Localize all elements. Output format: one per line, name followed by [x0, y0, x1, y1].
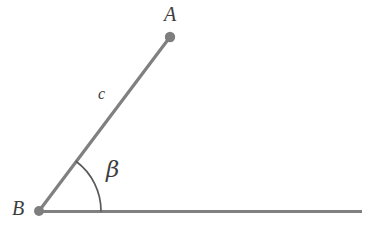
- vertex-label-a: A: [164, 4, 176, 24]
- segment-ba: [39, 37, 170, 211]
- diagram-canvas: [0, 0, 371, 231]
- side-label-c: c: [98, 86, 105, 102]
- angle-label-beta: β: [106, 158, 119, 181]
- geometry-diagram: A B c β: [0, 0, 371, 231]
- point-marker-a: [165, 32, 175, 42]
- point-marker-b: [34, 206, 44, 216]
- vertex-label-b: B: [12, 198, 24, 218]
- angle-arc-beta: [76, 162, 101, 212]
